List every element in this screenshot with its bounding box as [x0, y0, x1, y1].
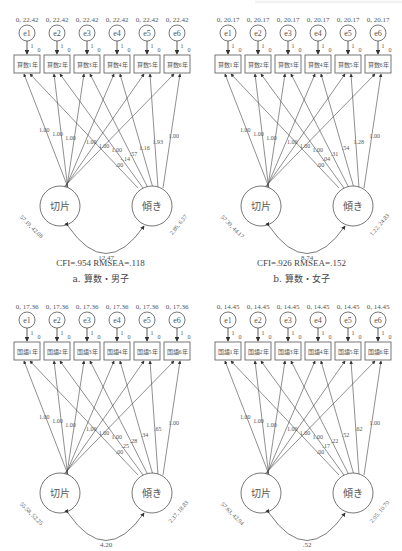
intercept-label: 0 — [68, 334, 71, 340]
error-variance-label: 0, 22.42 — [76, 16, 99, 24]
indicator-label: 国語4年 — [308, 348, 329, 356]
slope-loading: .00 — [116, 162, 124, 168]
indicator-label: 算数2年 — [47, 61, 68, 69]
error-path-weight: 1 — [61, 330, 64, 336]
error-path-weight: 1 — [121, 43, 124, 49]
latent-intercept-label: 切片 — [251, 487, 271, 499]
error-path-weight: 1 — [91, 43, 94, 49]
indicator-label: 国語5年 — [338, 348, 359, 356]
intercept-loading: 1.00 — [99, 430, 110, 436]
panel-d-japanese: 0, 14.45e110国語1年1.00.000, 14.45e210国語2年1… — [201, 287, 402, 551]
indicator-label: 国語6年 — [167, 348, 188, 356]
intercept-loading: 1.00 — [65, 135, 76, 141]
intercept-label: 0 — [128, 47, 131, 53]
indicator-label: 算数5年 — [137, 61, 158, 69]
latent-slope-params: 1.22, 24.83 — [368, 212, 390, 237]
indicator-label: 算数3年 — [77, 61, 98, 69]
slope-loading: .34 — [141, 432, 149, 438]
error-path-weight: 1 — [31, 330, 34, 336]
indicator-label: 国語2年 — [47, 348, 68, 356]
error-variance-label: 0, 17.36 — [136, 303, 159, 311]
latent-slope-label: 傾き — [142, 200, 162, 212]
panel-b-math-girls: 0, 20.17e110算数1年1.00.000, 20.17e210算数2年1… — [201, 0, 402, 266]
covariance-arc — [68, 513, 144, 541]
covariance-label: 4.20 — [100, 541, 113, 549]
slope-loading: 1.16 — [139, 145, 150, 151]
error-node-label: e1 — [23, 316, 31, 325]
intercept-loading: 1.00 — [300, 430, 311, 436]
error-node-label: e5 — [143, 316, 151, 325]
latent-slope-label: 傾き — [142, 487, 162, 499]
indicator-label: 国語3年 — [77, 348, 98, 356]
intercept-label: 0 — [158, 47, 161, 53]
intercept-label: 0 — [38, 47, 41, 53]
indicator-label: 算数3年 — [278, 61, 299, 69]
fit-indices-b: CFI=.926 RMSEA=.152 — [201, 258, 402, 268]
panel-a-math-boys: 0, 22.42e110算数1年1.00.000, 22.42e210算数2年1… — [0, 0, 201, 266]
error-path-weight: 1 — [382, 43, 385, 49]
intercept-label: 0 — [128, 334, 131, 340]
indicator-label: 国語4年 — [107, 348, 128, 356]
error-variance-label: 0, 22.42 — [166, 16, 189, 24]
error-variance-label: 0, 22.42 — [106, 16, 129, 24]
error-node-label: e4 — [314, 29, 322, 38]
slope-loading: .28 — [130, 438, 138, 444]
error-variance-label: 0, 20.17 — [367, 16, 390, 24]
error-node-label: e6 — [173, 316, 181, 325]
slope-loading: .54 — [342, 145, 350, 151]
intercept-loading: 1.00 — [39, 414, 50, 420]
indicator-label: 国語2年 — [248, 348, 269, 356]
intercept-label: 0 — [188, 47, 191, 53]
slope-loading: .17 — [323, 443, 331, 449]
intercept-label: 0 — [359, 334, 362, 340]
error-node-label: e1 — [23, 29, 31, 38]
covariance-arc — [269, 513, 345, 541]
intercept-loading: 1.00 — [65, 422, 76, 428]
intercept-loading: 1.00 — [99, 143, 110, 149]
slope-loading: .65 — [154, 426, 162, 432]
covariance-label: .52 — [303, 541, 312, 549]
slope-loading: .00 — [317, 449, 325, 455]
intercept-label: 0 — [158, 334, 161, 340]
caption-b: b. 算数・女子 — [201, 272, 402, 285]
covariance-arc — [269, 226, 345, 254]
intercept-loading: 1.00 — [313, 434, 324, 440]
intercept-loading: 1.00 — [112, 147, 123, 153]
error-path-weight: 1 — [151, 43, 154, 49]
intercept-loading: 1.00 — [253, 131, 264, 137]
fit-indices-a: CFI=.954 RMSEA=.118 — [0, 258, 201, 268]
slope-loading: 1.00 — [369, 420, 380, 426]
error-path-weight: 1 — [352, 330, 355, 336]
error-path-weight: 1 — [31, 43, 34, 49]
error-path-weight: 1 — [61, 43, 64, 49]
error-variance-label: 0, 14.45 — [307, 303, 330, 311]
intercept-label: 0 — [299, 47, 302, 53]
intercept-label: 0 — [359, 47, 362, 53]
error-variance-label: 0, 17.36 — [76, 303, 99, 311]
indicator-label: 国語3年 — [278, 348, 299, 356]
intercept-loading: 1.00 — [52, 131, 63, 137]
intercept-loading: 1.00 — [240, 127, 251, 133]
latent-slope-label: 傾き — [343, 200, 363, 212]
error-path-weight: 1 — [322, 330, 325, 336]
latent-slope-params: 2.05, 10.70 — [368, 499, 390, 524]
error-node-label: e5 — [344, 316, 352, 325]
slope-loading: .52 — [342, 432, 350, 438]
error-variance-label: 0, 20.17 — [217, 16, 240, 24]
intercept-label: 0 — [389, 334, 392, 340]
intercept-label: 0 — [299, 334, 302, 340]
intercept-label: 0 — [329, 334, 332, 340]
indicator-label: 国語6年 — [368, 348, 389, 356]
intercept-label: 0 — [269, 47, 272, 53]
error-variance-label: 0, 14.45 — [217, 303, 240, 311]
error-path-weight: 1 — [91, 330, 94, 336]
latent-intercept-label: 切片 — [50, 487, 70, 499]
latent-intercept-label: 切片 — [50, 200, 70, 212]
intercept-label: 0 — [269, 334, 272, 340]
indicator-label: 国語1年 — [218, 348, 239, 356]
error-variance-label: 0, 17.36 — [166, 303, 189, 311]
error-path-weight: 1 — [292, 43, 295, 49]
error-path-weight: 1 — [292, 330, 295, 336]
error-path-weight: 1 — [262, 330, 265, 336]
latent-slope-params: 2.37, 18.83 — [167, 499, 189, 524]
